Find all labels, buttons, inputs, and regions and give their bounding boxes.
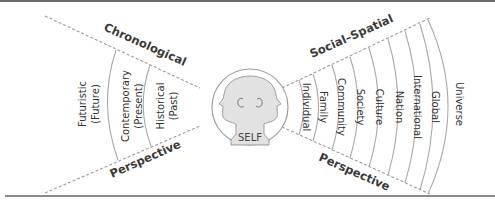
- band-futuristic: Futuristic (Future): [77, 81, 101, 127]
- band-contemporary-line1: Contemporary: [120, 70, 131, 142]
- band-society: Society: [355, 89, 366, 126]
- left-perspective-title: Perspective: [108, 137, 184, 181]
- chronological-fan: Chronological Perspective Historical (Pa…: [45, 16, 200, 193]
- band-contemporary-line2: (Present): [133, 83, 144, 128]
- chronological-title: Chronological: [102, 20, 189, 69]
- band-community: Community: [336, 78, 347, 136]
- self-perspective-diagram: Chronological Perspective Historical (Pa…: [0, 0, 495, 210]
- right-perspective-title: Perspective: [317, 150, 393, 194]
- band-global: Global: [430, 91, 441, 123]
- band-historical-line2: (Past): [168, 92, 179, 121]
- social-spatial-title: Social–Spatial: [308, 11, 396, 60]
- right-fan-bottom-edge: [282, 127, 430, 194]
- band-universe: Universe: [454, 82, 465, 126]
- band-contemporary: Contemporary (Present): [120, 70, 144, 142]
- left-arc-past-present: [143, 65, 151, 146]
- self-label: SELF: [238, 132, 262, 143]
- band-nation: Nation: [394, 91, 405, 124]
- right-arc-2: [313, 74, 319, 141]
- social-spatial-fan: Social–Spatial Perspective Individual Fa…: [282, 11, 465, 194]
- band-futuristic-line1: Futuristic: [77, 81, 88, 127]
- band-historical: Historical (Past): [155, 83, 179, 130]
- band-futuristic-line2: (Future): [90, 84, 101, 124]
- self-circle: SELF: [212, 69, 288, 145]
- band-individual: Individual: [301, 83, 312, 132]
- band-culture: Culture: [374, 89, 385, 125]
- band-historical-line1: Historical: [155, 83, 166, 130]
- band-international: International: [412, 75, 423, 139]
- left-arc-present-future: [107, 50, 118, 160]
- band-family: Family: [318, 91, 329, 123]
